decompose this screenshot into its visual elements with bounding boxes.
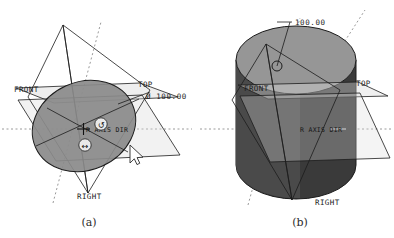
move-handle[interactable]: ↔ (79, 139, 91, 151)
right-plane-label-a: RIGHT (77, 192, 102, 201)
axis-direction-label-b: R AXIS DIR (300, 126, 342, 134)
move-handle-glyph: ↔ (82, 142, 89, 151)
rotate-handle[interactable]: ↺ (95, 118, 107, 130)
right-plane-label-b: RIGHT (315, 198, 340, 207)
front-plane-label-b: FRONT (244, 84, 269, 93)
rotate-handle-glyph: ↺ (98, 121, 105, 130)
top-plane-label-b: TOP (356, 79, 371, 88)
caption-b: (b) (292, 216, 308, 229)
cad-datum-plane-figure: R AXIS DIR ↺ ↔ FRONT TOP RIGHT Ø 100.00 … (0, 0, 394, 238)
caption-a: (a) (81, 216, 96, 229)
top-plane-label-a: TOP (138, 80, 153, 89)
front-plane-label-a: FRONT (14, 85, 39, 94)
diameter-dimension-label[interactable]: Ø 100.00 (146, 92, 187, 101)
extrude-dimension-label[interactable]: 100.00 (295, 18, 326, 27)
